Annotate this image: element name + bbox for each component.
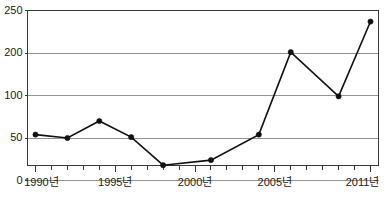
data-point-marker [368, 19, 373, 24]
chart-canvas: 250200100500 1990년1995년2000년2005년2011년 [0, 0, 389, 197]
x-axis-tick-label: 1995년 [98, 176, 132, 188]
data-point-marker [129, 135, 134, 140]
data-point-marker [65, 135, 70, 140]
data-point-marker [97, 118, 102, 123]
y-axis-tick-label: 0 [16, 174, 22, 186]
data-point-marker [288, 50, 293, 55]
series-markers [33, 19, 373, 168]
data-series [33, 19, 373, 168]
y-axis-tick-label: 200 [4, 46, 22, 58]
data-point-marker [161, 163, 166, 168]
x-axis-tickmarks [36, 166, 371, 172]
plot-frame [28, 11, 379, 166]
data-point-marker [208, 158, 213, 163]
data-point-marker [256, 132, 261, 137]
plot-frame-border [28, 11, 379, 166]
gridlines [28, 11, 379, 181]
data-point-marker [336, 94, 341, 99]
data-point-marker [33, 132, 38, 137]
line-chart: 250200100500 1990년1995년2000년2005년2011년 [0, 0, 389, 197]
x-axis-tick-label: 1990년 [24, 176, 58, 188]
x-axis-tick-label: 2011년 [346, 176, 380, 188]
y-axis-tick-label: 50 [10, 131, 22, 143]
x-axis-tick-labels: 1990년1995년2000년2005년2011년 [24, 176, 379, 188]
x-axis-tick-label: 2005년 [258, 176, 292, 188]
y-axis-tick-label: 100 [4, 89, 22, 101]
y-axis-tick-label: 250 [4, 4, 22, 16]
x-axis-tick-label: 2000년 [178, 176, 212, 188]
y-axis-tick-labels: 250200100500 [4, 4, 27, 186]
series-polyline [36, 22, 371, 166]
